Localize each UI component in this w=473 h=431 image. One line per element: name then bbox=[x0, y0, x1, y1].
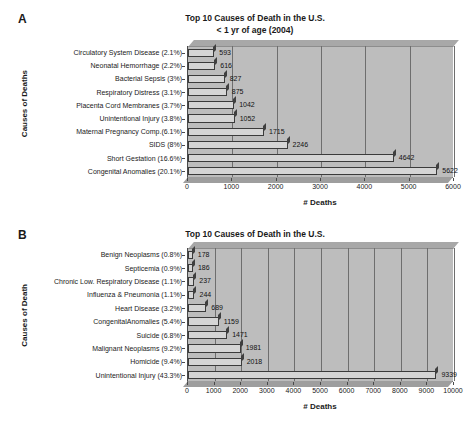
category-label: Suicide (6.8%) bbox=[18, 328, 185, 341]
category-label: Septicemia (0.9%) bbox=[18, 261, 185, 274]
bar[interactable] bbox=[188, 344, 241, 352]
category-label: Short Gestation (16.6%) bbox=[28, 152, 185, 165]
bar[interactable] bbox=[188, 371, 436, 379]
bar-value-label: 5622 bbox=[442, 167, 458, 174]
bar[interactable] bbox=[188, 317, 219, 325]
bar-value-label: 616 bbox=[220, 62, 232, 69]
bar[interactable] bbox=[188, 264, 193, 272]
chart-title-b-line1: Top 10 Causes of Death in the U.S. bbox=[185, 229, 325, 239]
x-tick-label: 1000 bbox=[224, 183, 240, 190]
x-tick-label: 10000 bbox=[443, 387, 462, 394]
x-tick-label: 6000 bbox=[445, 183, 461, 190]
category-label: Circulatory System Disease (2.1%) bbox=[28, 46, 185, 59]
bar[interactable] bbox=[188, 251, 193, 259]
bar-row: 2246 bbox=[188, 138, 453, 151]
y-tick-mark bbox=[182, 362, 185, 363]
bar-row: 1715 bbox=[188, 125, 453, 138]
gridline bbox=[454, 46, 455, 177]
x-tick-mark bbox=[347, 382, 348, 385]
y-tick-mark bbox=[182, 348, 185, 349]
category-label: Heart Disease (3.2%) bbox=[18, 302, 185, 315]
y-tick-mark bbox=[182, 92, 185, 93]
gridline bbox=[454, 248, 455, 381]
bar[interactable] bbox=[188, 277, 194, 285]
x-tick-mark bbox=[231, 178, 232, 181]
y-tick-mark bbox=[182, 158, 185, 159]
bar-row: 9339 bbox=[188, 369, 453, 382]
x-tick-mark bbox=[187, 382, 188, 385]
chart-panel-a: A Top 10 Causes of Death in the U.S. < 1… bbox=[0, 0, 473, 215]
x-tick-label: 2000 bbox=[268, 183, 284, 190]
bars-b: 17818623724468911591471198120189339 bbox=[188, 248, 453, 381]
x-tick-mark bbox=[453, 382, 454, 385]
x-tick-mark bbox=[409, 178, 410, 181]
category-label: Chronic Low. Respiratory Disease (1.1%) bbox=[18, 275, 185, 288]
bar-value-label: 1981 bbox=[246, 344, 262, 351]
x-tick-mark bbox=[214, 382, 215, 385]
bar-value-label: 1471 bbox=[232, 331, 248, 338]
chart-title-a-line2: < 1 yr of age (2004) bbox=[110, 25, 400, 37]
x-tick-label: 2000 bbox=[232, 387, 248, 394]
bar[interactable] bbox=[188, 291, 194, 299]
x-axis-title-b: # Deaths bbox=[187, 402, 453, 411]
bar-row: 186 bbox=[188, 261, 453, 274]
x-tick-label: 8000 bbox=[392, 387, 408, 394]
category-label: CongenitalAnomalies (5.4%) bbox=[18, 315, 185, 328]
chart-title-a: Top 10 Causes of Death in the U.S. < 1 y… bbox=[110, 13, 400, 36]
bar[interactable] bbox=[188, 304, 206, 312]
y-tick-mark bbox=[182, 119, 185, 120]
bar[interactable] bbox=[188, 75, 225, 83]
bar-row: 237 bbox=[188, 275, 453, 288]
x-tick-label: 4000 bbox=[357, 183, 373, 190]
bar[interactable] bbox=[188, 128, 264, 136]
bar[interactable] bbox=[188, 49, 214, 57]
x-tick-mark bbox=[320, 178, 321, 181]
bar-value-label: 593 bbox=[219, 49, 231, 56]
x-tick-mark bbox=[364, 178, 365, 181]
x-tick-label: 4000 bbox=[286, 387, 302, 394]
bar-value-label: 2018 bbox=[247, 358, 263, 365]
panel-letter-a: A bbox=[18, 12, 27, 26]
y-tick-mark bbox=[182, 145, 185, 146]
x-tick-label: 7000 bbox=[365, 387, 381, 394]
y-tick-mark bbox=[182, 66, 185, 67]
x-tick-label: 6000 bbox=[339, 387, 355, 394]
bar[interactable] bbox=[188, 88, 227, 96]
x-tick-label: 5000 bbox=[312, 387, 328, 394]
bar-row: 4642 bbox=[188, 152, 453, 165]
bar[interactable] bbox=[188, 114, 235, 122]
y-tick-mark bbox=[182, 79, 185, 80]
x-tick-mark bbox=[293, 382, 294, 385]
bar-value-label: 1042 bbox=[239, 101, 255, 108]
bar-row: 616 bbox=[188, 59, 453, 72]
x-tick-mark bbox=[453, 178, 454, 181]
y-tick-mark bbox=[182, 375, 185, 376]
x-tick-mark bbox=[187, 178, 188, 181]
bar-value-label: 237 bbox=[199, 277, 211, 284]
bar[interactable] bbox=[188, 358, 242, 366]
x-tick-label: 5000 bbox=[401, 183, 417, 190]
bar-row: 1471 bbox=[188, 328, 453, 341]
bar-value-label: 1159 bbox=[224, 318, 239, 325]
bar[interactable] bbox=[188, 62, 215, 70]
y-tick-mark bbox=[182, 132, 185, 133]
bar-row: 2018 bbox=[188, 355, 453, 368]
category-label: Unintentional Injury (3.8%) bbox=[28, 112, 185, 125]
bar[interactable] bbox=[188, 141, 288, 149]
x-tick-mark bbox=[400, 382, 401, 385]
y-tick-mark bbox=[182, 268, 185, 269]
bar[interactable] bbox=[188, 167, 437, 175]
bar[interactable] bbox=[188, 154, 394, 162]
category-label: Benign Neoplasms (0.8%) bbox=[18, 248, 185, 261]
bar[interactable] bbox=[188, 331, 227, 339]
y-axis-category-labels-a: Circulatory System Disease (2.1%)Neonata… bbox=[28, 46, 185, 178]
bar-row: 875 bbox=[188, 86, 453, 99]
x-tick-label: 0 bbox=[185, 183, 189, 190]
x-tick-mark bbox=[426, 382, 427, 385]
category-label: Malignant Neoplasms (9.2%) bbox=[18, 342, 185, 355]
bar[interactable] bbox=[188, 101, 234, 109]
plot-area-b: 17818623724468911591471198120189339 bbox=[187, 248, 453, 382]
y-tick-mark bbox=[182, 335, 185, 336]
y-tick-mark bbox=[182, 308, 185, 309]
x-tick-mark bbox=[276, 178, 277, 181]
